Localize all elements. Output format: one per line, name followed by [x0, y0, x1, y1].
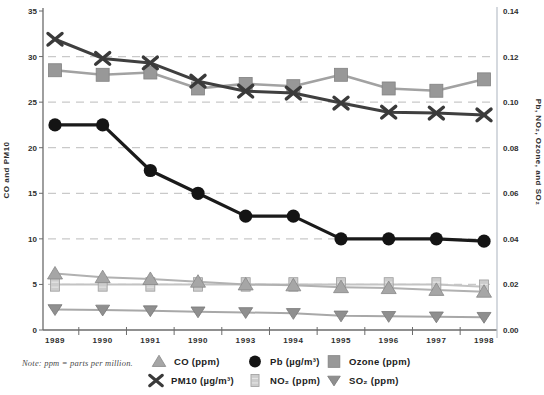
svg-text:1997: 1997: [426, 336, 446, 345]
pm10-x-icon: [146, 372, 166, 389]
svg-text:10: 10: [28, 235, 37, 244]
legend-item-ozone: Ozone (ppm): [324, 353, 410, 370]
svg-text:0.12: 0.12: [503, 53, 519, 62]
svg-text:30: 30: [28, 53, 37, 62]
legend-label-co: CO (ppm): [174, 356, 220, 367]
svg-text:5: 5: [33, 280, 38, 289]
svg-text:35: 35: [28, 7, 37, 16]
legend-label-so2: SO₂ (ppm): [349, 375, 399, 386]
legend-item-pm10: PM10 (µg/m³): [146, 372, 234, 389]
svg-text:Pb, NO₂, Ozone, and SO₂: Pb, NO₂, Ozone, and SO₂: [534, 99, 543, 206]
no2-square-icon: [245, 372, 265, 389]
footnote: Note: ppm = parts per million.: [22, 358, 133, 368]
legend-item-no2: NO₂ (ppm): [245, 372, 320, 389]
svg-text:0.08: 0.08: [503, 144, 519, 153]
svg-text:0: 0: [33, 326, 38, 335]
svg-text:0.14: 0.14: [503, 7, 519, 16]
legend-item-co: CO (ppm): [149, 353, 220, 370]
svg-text:0.04: 0.04: [503, 235, 519, 244]
legend-label-pm10: PM10 (µg/m³): [171, 375, 234, 386]
legend-label-pb: Pb (µg/m³): [270, 356, 320, 367]
svg-text:1989: 1989: [45, 336, 65, 345]
svg-text:20: 20: [28, 144, 37, 153]
legend-label-no2: NO₂ (ppm): [270, 375, 320, 386]
svg-text:0.06: 0.06: [503, 189, 519, 198]
ozone-square-icon: [324, 353, 344, 370]
svg-text:1995: 1995: [331, 336, 351, 345]
pb-circle-icon: [245, 353, 265, 370]
svg-text:1994: 1994: [283, 336, 303, 345]
svg-text:1998: 1998: [474, 336, 494, 345]
svg-text:1990: 1990: [93, 336, 113, 345]
so2-triangle-icon: [324, 372, 344, 389]
svg-text:0.10: 0.10: [503, 98, 519, 107]
legend-label-ozone: Ozone (ppm): [349, 356, 410, 367]
legend-item-pb: Pb (µg/m³): [245, 353, 320, 370]
legend-item-so2: SO₂ (ppm): [324, 372, 399, 389]
co-triangle-icon: [149, 353, 169, 370]
air-quality-trends-chart: 051015202530350.000.020.040.060.080.100.…: [0, 0, 544, 350]
svg-text:15: 15: [28, 189, 37, 198]
svg-text:1990: 1990: [188, 336, 208, 345]
svg-text:1991: 1991: [140, 336, 160, 345]
svg-text:1993: 1993: [236, 336, 256, 345]
svg-text:0.02: 0.02: [503, 280, 519, 289]
svg-text:0.00: 0.00: [503, 326, 519, 335]
svg-text:1996: 1996: [379, 336, 399, 345]
svg-text:CO and PM10: CO and PM10: [2, 141, 11, 198]
svg-text:25: 25: [28, 98, 37, 107]
air-quality-figure: 051015202530350.000.020.040.060.080.100.…: [0, 0, 544, 395]
